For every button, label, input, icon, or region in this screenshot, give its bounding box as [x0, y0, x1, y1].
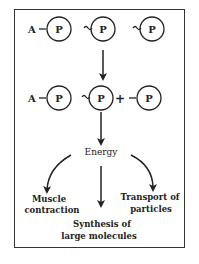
curved-arrow-icon — [47, 155, 71, 190]
svg-text:P: P — [145, 93, 153, 104]
svg-text:P: P — [55, 93, 63, 104]
svg-text:P: P — [97, 93, 105, 104]
plus-sign: + — [115, 92, 125, 106]
use-muscle-line1: Muscle — [32, 194, 67, 204]
svg-text:P: P — [99, 24, 107, 35]
curved-arrow-icon — [131, 155, 153, 188]
adenosine-label: A — [27, 24, 36, 35]
energy-label: Energy — [85, 147, 119, 157]
use-synthesis-line1: Synthesis of — [73, 219, 132, 229]
use-transport-line2: particles — [130, 204, 172, 214]
use-transport-line1: Transport of — [121, 192, 181, 202]
adp-row: A P P + P — [27, 86, 161, 110]
atp-diagram: A P P P A P P + P Energy Muscle contract… — [0, 0, 199, 264]
svg-text:P: P — [55, 24, 63, 35]
atp-row: A P P P — [27, 17, 164, 41]
svg-text:A: A — [27, 93, 36, 104]
use-synthesis-line2: large molecules — [61, 231, 137, 241]
use-muscle-line2: contraction — [24, 205, 79, 215]
svg-text:P: P — [148, 24, 156, 35]
